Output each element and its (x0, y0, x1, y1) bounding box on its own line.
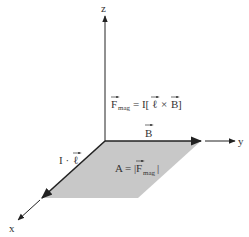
z-axis-label: z (101, 2, 106, 14)
svg-text:A = |: A = | (115, 162, 136, 174)
svg-text:ℓ: ℓ (152, 98, 157, 110)
svg-text:×: × (161, 98, 167, 110)
b-field-label: B (145, 125, 152, 139)
svg-text:B: B (145, 127, 152, 139)
svg-text:]: ] (178, 98, 182, 110)
magnetic-force-diagram: z y x F mag = I[ ℓ × B ] B I · ℓ A = | F… (0, 0, 249, 237)
current-length-label: I · ℓ (59, 153, 80, 166)
svg-text:F: F (136, 162, 142, 174)
svg-text:I ·: I · (59, 154, 69, 166)
x-axis (18, 200, 40, 220)
x-axis-label: x (9, 222, 15, 234)
y-axis-label: y (238, 135, 244, 147)
svg-text:|: | (157, 162, 159, 174)
svg-text:F: F (111, 98, 117, 110)
svg-text:mag: mag (143, 169, 156, 177)
svg-text:mag: mag (118, 104, 131, 112)
force-equation: F mag = I[ ℓ × B ] (111, 97, 182, 112)
svg-text:= I[: = I[ (133, 98, 150, 110)
svg-text:ℓ: ℓ (73, 154, 78, 166)
